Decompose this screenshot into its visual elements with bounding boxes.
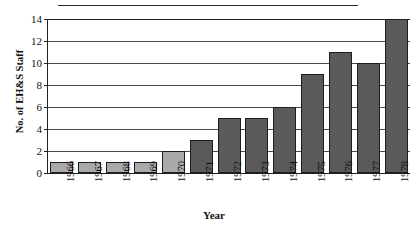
x-tick-label: 1971 (205, 161, 216, 182)
y-tick-label: 4 (37, 124, 43, 135)
x-tick-label: 1977 (372, 161, 383, 182)
x-tick-label: 1974 (289, 161, 300, 182)
x-tick-label: 1968 (122, 161, 133, 182)
plot-area: 02468101214 (47, 19, 410, 174)
x-tick-label: 1967 (94, 161, 105, 182)
y-tick-label: 14 (31, 14, 42, 25)
bar (357, 63, 380, 173)
x-tick-label: 1972 (233, 161, 244, 182)
bar (301, 74, 324, 173)
y-tick-label: 10 (31, 58, 42, 69)
y-tick-label: 2 (37, 146, 43, 157)
x-tick-label: 1978 (400, 161, 411, 182)
x-tick-label: 1973 (261, 161, 272, 182)
x-tick-label: 1969 (149, 161, 160, 182)
x-tick-label: 1970 (177, 161, 188, 182)
x-tick-label: 1966 (66, 161, 77, 182)
x-axis-title: Year (0, 209, 418, 221)
x-tick-label: 1976 (344, 161, 355, 182)
bar (329, 52, 352, 173)
y-tick-label: 12 (31, 36, 42, 47)
bars (48, 19, 410, 173)
y-tick-label: 8 (37, 80, 43, 91)
y-tick-mark (44, 173, 48, 174)
y-tick-label: 6 (37, 102, 43, 113)
y-tick-label: 0 (37, 168, 43, 179)
x-tick-label: 1975 (317, 161, 328, 182)
bar (385, 19, 408, 173)
header-rule (58, 5, 358, 6)
bar-chart-figure: No. of EH&S Staff 02468101214 1966196719… (0, 0, 418, 226)
y-axis-title: No. of EH&S Staff (14, 22, 25, 162)
